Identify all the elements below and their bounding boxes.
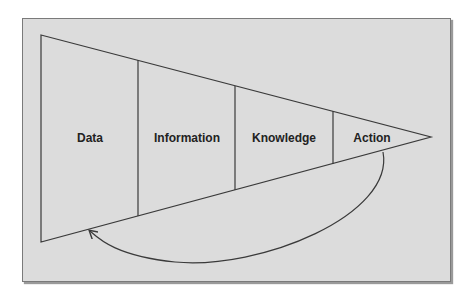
stage-knowledge: Knowledge xyxy=(252,131,316,145)
funnel-diagram xyxy=(0,0,473,299)
stage-information: Information xyxy=(154,131,220,145)
feedback-arrow xyxy=(90,152,384,263)
stage-data: Data xyxy=(77,131,103,145)
stage-action: Action xyxy=(353,131,390,145)
